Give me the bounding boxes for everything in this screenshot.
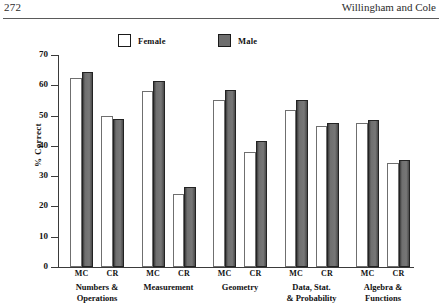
y-axis-tick-label: 10	[30, 231, 48, 241]
format-label: CR	[240, 269, 271, 278]
bar-female	[70, 78, 82, 267]
format-label: CR	[312, 269, 343, 278]
category-group-label: Geometry	[199, 282, 281, 293]
bar-female	[173, 194, 185, 267]
legend-swatch-female	[118, 34, 131, 47]
format-label-row: MCCR	[142, 269, 196, 281]
y-axis-tick	[51, 55, 58, 56]
y-axis-tick-label: 0	[30, 261, 48, 271]
page-number: 272	[4, 1, 21, 13]
legend-label-female: Female	[138, 36, 166, 46]
x-axis-line	[58, 267, 414, 268]
bar-male	[296, 100, 308, 267]
format-label: MC	[352, 269, 383, 278]
legend-item-male: Male	[218, 34, 257, 47]
legend-swatch-male	[218, 34, 231, 47]
category-axis: MCCRNumbers & OperationsMCCRMeasurementM…	[58, 269, 442, 307]
bar-chart-figure: Female Male % Correct 010203040506070 MC…	[0, 22, 442, 300]
format-label-row: MCCR	[285, 269, 339, 281]
category-group-label: Numbers & Operations	[56, 282, 138, 303]
category-group: MCCRAlgebra & Functions	[356, 269, 410, 281]
category-group: MCCRMeasurement	[142, 269, 196, 281]
y-axis-tick-label: 20	[30, 200, 48, 210]
bar-female	[356, 123, 368, 267]
bar-female	[285, 110, 297, 267]
format-label: CR	[383, 269, 414, 278]
bar-male	[82, 72, 94, 267]
running-title: Willingham and Cole	[342, 1, 436, 13]
bar-female	[213, 100, 225, 267]
bar-male	[368, 120, 380, 267]
y-axis-tick	[51, 85, 58, 86]
bar-female	[101, 116, 113, 267]
y-axis-tick	[51, 116, 58, 117]
bar-female	[387, 163, 399, 267]
format-label: MC	[66, 269, 97, 278]
format-label: MC	[138, 269, 169, 278]
format-label: MC	[281, 269, 312, 278]
bar-female	[142, 91, 154, 267]
plot-area	[58, 55, 414, 267]
bar-male	[225, 90, 237, 267]
category-group-label: Algebra & Functions	[342, 282, 424, 303]
y-axis-tick	[51, 146, 58, 147]
header-divider	[3, 18, 439, 19]
bar-male	[399, 160, 411, 268]
y-axis-tick-label: 30	[30, 170, 48, 180]
y-axis-tick	[51, 237, 58, 238]
format-label: CR	[97, 269, 128, 278]
y-axis-tick	[51, 206, 58, 207]
category-group: MCCRData, Stat. & Probability	[285, 269, 339, 281]
category-group-label: Measurement	[128, 282, 210, 293]
format-label: MC	[209, 269, 240, 278]
category-group: MCCRGeometry	[213, 269, 267, 281]
y-axis-tick-label: 40	[30, 140, 48, 150]
format-label-row: MCCR	[70, 269, 124, 281]
bar-male	[184, 187, 196, 267]
y-axis-tick-label: 70	[30, 49, 48, 59]
format-label-row: MCCR	[213, 269, 267, 281]
category-group-label: Data, Stat. & Probability	[271, 282, 353, 303]
y-axis-tick	[51, 176, 58, 177]
y-axis-tick-label: 50	[30, 110, 48, 120]
legend-label-male: Male	[238, 36, 257, 46]
format-label-row: MCCR	[356, 269, 410, 281]
y-axis-tick	[51, 267, 58, 268]
page-header: 272 Willingham and Cole	[0, 0, 442, 22]
bar-male	[327, 123, 339, 267]
bar-female	[244, 152, 256, 267]
legend-item-female: Female	[118, 34, 166, 47]
bar-male	[153, 81, 165, 267]
category-group: MCCRNumbers & Operations	[70, 269, 124, 281]
y-axis-tick-label: 60	[30, 79, 48, 89]
bar-male	[113, 119, 125, 267]
format-label: CR	[169, 269, 200, 278]
bar-female	[316, 126, 328, 267]
bar-male	[256, 141, 268, 267]
